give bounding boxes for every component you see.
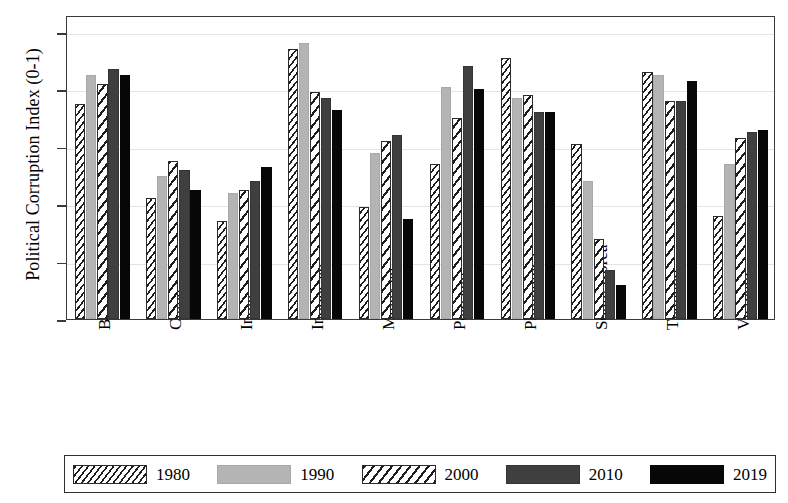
bar-group — [209, 17, 280, 319]
bar-pakistan-2000 — [452, 118, 462, 319]
y-axis-tick — [57, 205, 66, 207]
bar-south-korea-2019 — [616, 285, 626, 319]
bar-malaysia-1990 — [370, 153, 380, 319]
bar-malaysia-2010 — [392, 135, 402, 319]
bar-india-2000 — [239, 190, 249, 319]
plot-area — [66, 16, 775, 320]
bar-bangladesh-1990 — [86, 75, 96, 319]
bar-bangladesh-1980 — [75, 104, 85, 319]
bar-thailand-2000 — [665, 101, 675, 319]
legend-swatch-2019 — [650, 465, 724, 484]
bar-indonesia-2000 — [310, 92, 320, 319]
bar-india-1980 — [217, 221, 227, 319]
y-axis-tick — [57, 320, 66, 322]
bar-philippines-1980 — [501, 58, 511, 319]
legend-item-2000: 2000 — [362, 465, 479, 484]
legend-label-1980: 1980 — [156, 466, 190, 483]
bar-south-korea-1980 — [571, 144, 581, 319]
bar-vietnam-2000 — [735, 138, 745, 319]
bar-pakistan-2019 — [474, 89, 484, 319]
bar-group — [280, 17, 351, 319]
legend-label-1990: 1990 — [300, 466, 334, 483]
legend-swatch-1990 — [217, 465, 291, 484]
bar-group — [634, 17, 705, 319]
bar-china-2000 — [168, 161, 178, 319]
bar-indonesia-2010 — [321, 98, 331, 319]
bar-thailand-1990 — [653, 75, 663, 319]
bar-south-korea-2010 — [605, 270, 615, 319]
bar-chart: Political Corruption Index (0-1) 00.20.4… — [0, 0, 788, 503]
bar-group — [138, 17, 209, 319]
bar-philippines-2000 — [523, 95, 533, 319]
legend-label-2010: 2010 — [589, 466, 623, 483]
bar-pakistan-1980 — [430, 164, 440, 319]
legend-swatch-2010 — [506, 465, 580, 484]
bar-group — [705, 17, 776, 319]
legend-item-1990: 1990 — [217, 465, 334, 484]
bar-pakistan-1990 — [441, 87, 451, 319]
legend-swatch-1980 — [73, 465, 147, 484]
bar-vietnam-2010 — [747, 132, 757, 319]
legend-item-2019: 2019 — [650, 465, 767, 484]
bar-south-korea-1990 — [583, 181, 593, 319]
y-axis-tick — [57, 90, 66, 92]
legend-item-1980: 1980 — [73, 465, 190, 484]
y-axis-tick — [57, 33, 66, 35]
bar-indonesia-1990 — [299, 43, 309, 319]
bar-philippines-2019 — [545, 112, 555, 319]
bar-bangladesh-2019 — [120, 75, 130, 319]
bar-indonesia-2019 — [332, 110, 342, 320]
y-axis-tick — [57, 263, 66, 265]
bar-thailand-1980 — [642, 72, 652, 319]
bar-indonesia-1980 — [288, 49, 298, 319]
bar-china-2010 — [179, 170, 189, 319]
bar-bangladesh-2010 — [108, 69, 118, 319]
bar-bangladesh-2000 — [97, 84, 107, 319]
bar-china-1980 — [146, 198, 156, 319]
bar-india-2010 — [250, 181, 260, 319]
bar-philippines-2010 — [534, 112, 544, 319]
bar-group — [67, 17, 138, 319]
bar-thailand-2019 — [687, 81, 697, 319]
bar-group — [422, 17, 493, 319]
bar-india-1990 — [228, 193, 238, 319]
bar-philippines-1990 — [512, 98, 522, 319]
legend-item-2010: 2010 — [506, 465, 623, 484]
bar-china-2019 — [190, 190, 200, 319]
y-axis-tick — [57, 148, 66, 150]
bar-vietnam-1980 — [713, 216, 723, 319]
bar-vietnam-1990 — [724, 164, 734, 319]
bar-china-1990 — [157, 176, 167, 320]
y-axis-title: Political Corruption Index (0-1) — [23, 10, 44, 320]
bar-india-2019 — [261, 167, 271, 319]
bar-thailand-2010 — [676, 101, 686, 319]
bar-vietnam-2019 — [758, 130, 768, 319]
bar-group — [563, 17, 634, 319]
bar-pakistan-2010 — [463, 66, 473, 319]
legend-swatch-2000 — [362, 465, 436, 484]
bar-malaysia-2000 — [381, 141, 391, 319]
legend: 19801990200020102019 — [64, 455, 776, 493]
bar-south-korea-2000 — [594, 239, 604, 319]
bar-malaysia-1980 — [359, 207, 369, 319]
bar-group — [351, 17, 422, 319]
legend-label-2019: 2019 — [733, 466, 767, 483]
bar-malaysia-2019 — [403, 219, 413, 319]
bar-group — [492, 17, 563, 319]
legend-label-2000: 2000 — [445, 466, 479, 483]
